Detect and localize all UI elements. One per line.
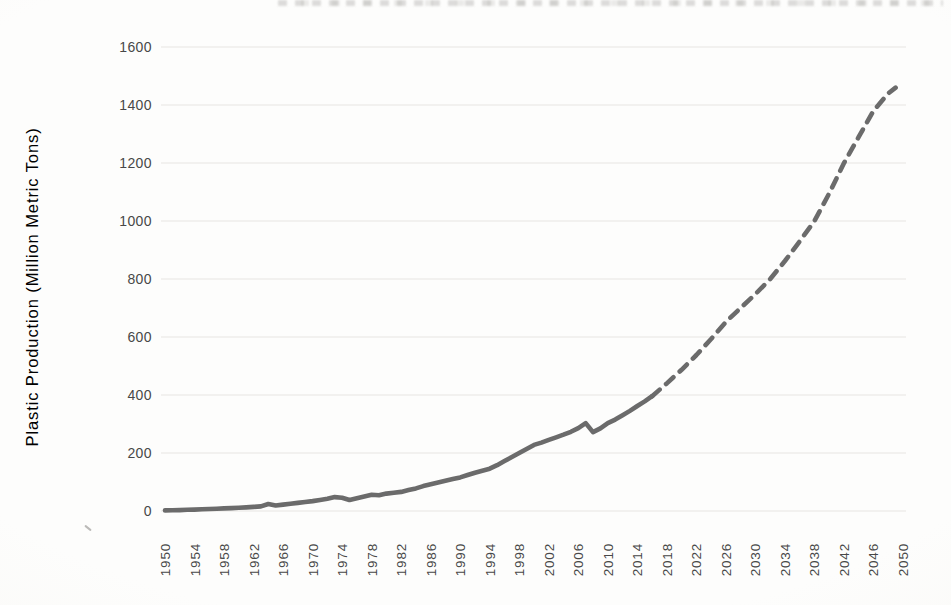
y-tick-label: 0 [144,503,152,519]
x-tick-label: 1990 [453,543,468,576]
x-tick-label: 1982 [394,543,409,576]
x-tick-label: 1958 [217,543,232,576]
production-line-dashed [652,88,896,397]
y-tick-label: 400 [127,387,152,403]
x-tick-label: 2018 [660,543,675,576]
x-tick-label: 1998 [512,543,527,576]
y-tick-label: 1600 [119,39,152,55]
data-series [165,88,896,511]
y-tick-label: 200 [127,445,152,461]
x-tick-label: 2022 [689,543,704,576]
x-tick-label: 1950 [158,543,173,576]
y-axis-tick-labels: 02004006008001000120014001600 [119,39,152,519]
x-tick-label: 1974 [335,543,350,576]
x-tick-label: 1970 [306,543,321,576]
plastic-production-chart: 02004006008001000120014001600 1950195419… [0,0,951,605]
x-tick-label: 2046 [866,543,881,576]
chart-figure: 02004006008001000120014001600 1950195419… [0,0,951,605]
x-tick-label: 2014 [630,543,645,576]
y-tick-label: 1400 [119,97,152,113]
x-tick-label: 2038 [807,543,822,576]
y-tick-label: 600 [127,329,152,345]
x-tick-label: 1978 [365,543,380,576]
x-tick-label: 2050 [896,543,911,576]
x-tick-label: 2034 [778,543,793,576]
x-tick-label: 2010 [601,543,616,576]
x-axis-tick-labels: 1950195419581962196619701974197819821986… [158,543,911,576]
y-gridlines [161,47,906,511]
x-tick-label: 2006 [571,543,586,576]
y-tick-label: 1200 [119,155,152,171]
x-tick-label: 1994 [483,543,498,576]
x-tick-label: 1966 [276,543,291,576]
x-tick-label: 1986 [424,543,439,576]
x-tick-label: 2042 [837,543,852,576]
y-axis-title: Plastic Production (Million Metric Tons) [23,127,41,446]
x-tick-label: 1962 [247,543,262,576]
y-tick-label: 1000 [119,213,152,229]
x-tick-label: 2002 [542,543,557,576]
x-tick-label: 2026 [719,543,734,576]
x-tick-label: 2030 [748,543,763,576]
y-tick-label: 800 [127,271,152,287]
x-tick-label: 1954 [188,543,203,576]
